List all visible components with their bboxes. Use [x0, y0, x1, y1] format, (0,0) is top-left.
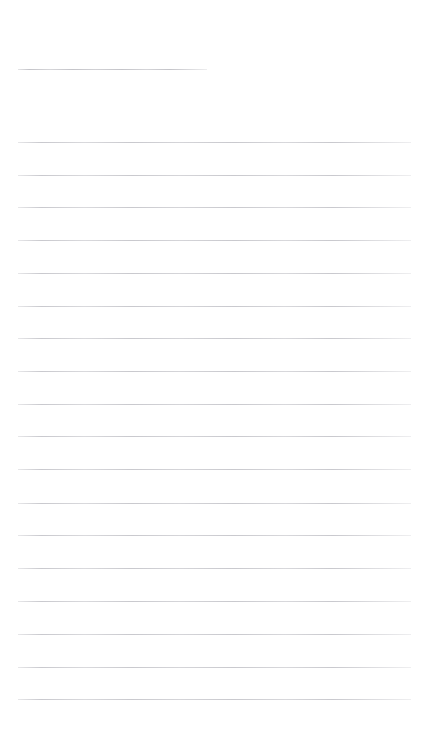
writing-row[interactable]: [18, 341, 411, 371]
ruled-line: [18, 469, 411, 470]
writing-row[interactable]: [18, 669, 411, 699]
writing-row[interactable]: [18, 210, 411, 240]
ruled-line: [18, 404, 411, 405]
notepaper-page: [0, 0, 432, 749]
writing-row[interactable]: [18, 276, 411, 306]
writing-row[interactable]: [18, 406, 411, 436]
writing-row[interactable]: [18, 604, 411, 634]
ruled-line: [18, 667, 411, 668]
ruled-line: [18, 535, 411, 536]
ruled-line: [18, 436, 411, 437]
writing-row[interactable]: [18, 177, 411, 207]
writing-row[interactable]: [18, 145, 411, 175]
writing-row[interactable]: [18, 374, 411, 404]
ruled-line: [18, 601, 411, 602]
ruled-line: [18, 568, 411, 569]
ruled-line: [18, 634, 411, 635]
ruled-line: [18, 240, 411, 241]
ruled-line: [18, 142, 411, 143]
ruled-line: [18, 503, 411, 504]
title-blank-rule[interactable]: [18, 69, 207, 70]
ruled-line: [18, 699, 411, 700]
writing-row[interactable]: [18, 473, 411, 503]
writing-row[interactable]: [18, 112, 411, 142]
ruled-line: [18, 273, 411, 274]
writing-row[interactable]: [18, 243, 411, 273]
ruled-line: [18, 306, 411, 307]
writing-row[interactable]: [18, 637, 411, 667]
ruled-line: [18, 207, 411, 208]
writing-row[interactable]: [18, 505, 411, 535]
ruled-line: [18, 371, 411, 372]
ruled-line: [18, 338, 411, 339]
writing-row[interactable]: [18, 439, 411, 469]
writing-row[interactable]: [18, 538, 411, 568]
writing-row[interactable]: [18, 308, 411, 338]
ruled-line: [18, 175, 411, 176]
writing-row[interactable]: [18, 571, 411, 601]
